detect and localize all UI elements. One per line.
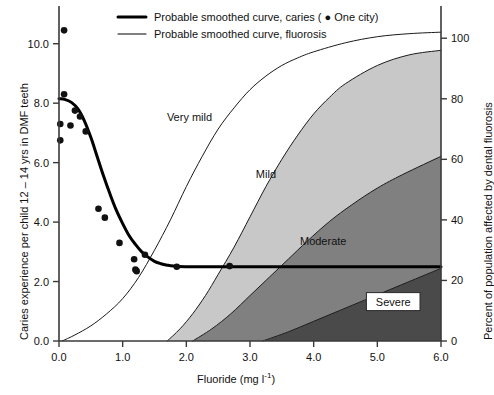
scatter-point-one-city — [102, 214, 109, 221]
scatter-point-one-city — [57, 137, 64, 144]
scatter-point-one-city — [67, 122, 74, 129]
scatter-point-one-city — [116, 240, 123, 247]
x-axis-label-tail: ) — [271, 373, 275, 385]
x-tick-label: 5.0 — [370, 351, 385, 363]
legend-label-fluorosis: Probable smoothed curve, fluorosis — [154, 28, 327, 40]
scatter-point-one-city — [142, 251, 149, 258]
scatter-point-one-city — [131, 256, 138, 263]
x-tick-label: 1.0 — [115, 351, 130, 363]
annotation-label: Mild — [256, 168, 276, 180]
legend-label-caries: Probable smoothed curve, caries ( ● One … — [154, 11, 378, 23]
scatter-point-one-city — [57, 121, 64, 128]
scatter-point-one-city — [61, 27, 68, 34]
annotation-label: Severe — [376, 296, 411, 308]
y-tick-label-right: 40 — [451, 214, 463, 226]
y-tick-label-right: 0 — [451, 335, 457, 347]
y-tick-label-left: 2.0 — [34, 276, 49, 288]
y-tick-label-left: 6.0 — [34, 157, 49, 169]
x-tick-label: 4.0 — [306, 351, 321, 363]
y-tick-label-left: 10.0 — [28, 38, 49, 50]
y-tick-label-right: 20 — [451, 274, 463, 286]
x-tick-label: 3.0 — [242, 351, 257, 363]
annotation-label: Moderate — [300, 235, 346, 247]
y-tick-label-left: 8.0 — [34, 97, 49, 109]
y-tick-label-right: 100 — [451, 32, 469, 44]
y-axis-right-label: Percent of population affected by dental… — [482, 102, 494, 340]
y-tick-label-left: 0.0 — [34, 335, 49, 347]
scatter-point-one-city — [61, 91, 68, 98]
y-tick-label-right: 80 — [451, 93, 463, 105]
x-tick-label: 6.0 — [433, 351, 448, 363]
x-axis-label-main: Fluoride (mg l — [197, 373, 264, 385]
x-tick-label: 2.0 — [179, 351, 194, 363]
annotation-label: Very mild — [167, 111, 212, 123]
scatter-point-one-city — [77, 113, 84, 120]
x-axis-label: Fluoride (mg l-1) — [197, 371, 275, 385]
x-tick-label: 0.0 — [51, 351, 66, 363]
scatter-point-one-city — [226, 263, 233, 270]
scatter-point-one-city — [133, 268, 140, 275]
y-tick-label-right: 60 — [451, 153, 463, 165]
scatter-point-one-city — [173, 263, 180, 270]
scatter-point-one-city — [72, 107, 79, 114]
scatter-point-one-city — [95, 205, 102, 212]
y-tick-label-left: 4.0 — [34, 216, 49, 228]
scatter-point-one-city — [82, 128, 89, 135]
y-axis-left-label: Caries experience per child 12 – 14 yrs … — [18, 83, 30, 340]
